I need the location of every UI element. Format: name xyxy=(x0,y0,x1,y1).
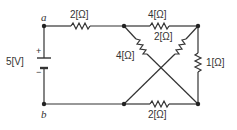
source-minus: − xyxy=(36,68,41,77)
resistor-2ohm-bottom xyxy=(150,101,169,107)
label-r-right: 1[Ω] xyxy=(206,58,225,68)
wire xyxy=(124,26,136,39)
label-r-bottom: 2[Ω] xyxy=(148,110,167,120)
source-label: 5[V] xyxy=(6,57,24,67)
resistor-2ohm-diag xyxy=(175,39,186,54)
circuit-diagram xyxy=(0,0,237,130)
wire xyxy=(124,54,175,104)
resistor-2ohm-a xyxy=(71,23,90,29)
label-r-top: 4[Ω] xyxy=(148,10,167,20)
source-plus: + xyxy=(36,47,41,56)
node-top-left xyxy=(122,24,126,28)
resistor-4ohm-top xyxy=(150,23,169,29)
node-bottom-right xyxy=(196,102,200,106)
node-bottom-left xyxy=(122,102,126,106)
wire xyxy=(186,26,198,39)
node-a xyxy=(42,24,46,28)
node-top-right xyxy=(196,24,200,28)
label-r-diag-right: 2[Ω] xyxy=(154,32,173,42)
wire xyxy=(147,54,198,104)
node-b xyxy=(42,102,46,106)
node-b-label: b xyxy=(41,109,47,120)
resistor-4ohm-diag xyxy=(136,39,147,54)
label-r-diag-left: 4[Ω] xyxy=(116,51,135,61)
label-r-a: 2[Ω] xyxy=(70,10,89,20)
node-a-label: a xyxy=(41,12,47,23)
resistor-1ohm-right xyxy=(195,53,201,72)
